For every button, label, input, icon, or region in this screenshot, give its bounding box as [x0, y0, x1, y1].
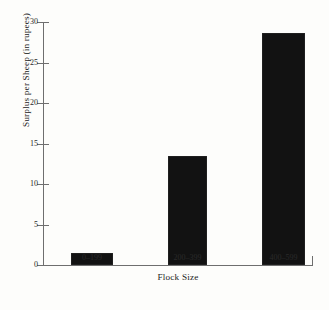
- y-axis-tick-mark: [37, 144, 49, 145]
- y-axis-tick-label: 30: [30, 16, 38, 27]
- y-axis-tick-mark: [37, 184, 49, 185]
- y-axis-tick-label: 20: [30, 97, 38, 108]
- x-axis-tick-label: 400–599: [244, 252, 324, 263]
- bar: [168, 156, 207, 265]
- y-axis-tick-label: 15: [30, 138, 38, 149]
- y-axis-tick-label: 10: [30, 178, 38, 189]
- y-axis-tick-mark: [37, 63, 49, 64]
- y-axis-tick-mark: [37, 22, 49, 23]
- y-axis-tick-label: 0: [34, 259, 38, 270]
- x-axis-title: Flock Size: [43, 272, 313, 282]
- y-axis-tick-mark: [37, 265, 49, 266]
- y-axis-tick-label: 5: [34, 219, 38, 230]
- x-axis-line: [43, 265, 313, 266]
- x-axis-tick-label: 0–199: [52, 252, 132, 263]
- y-axis-tick-label: 25: [30, 57, 38, 68]
- plot-area: 051015202530: [43, 22, 313, 265]
- x-axis-tick-label: 200–399: [148, 252, 228, 263]
- y-axis-tick-mark: [37, 225, 49, 226]
- bar: [262, 33, 305, 265]
- bar-chart: Surplus per Sheep (in rupees) 0510152025…: [0, 0, 329, 310]
- y-axis-tick-mark: [37, 103, 49, 104]
